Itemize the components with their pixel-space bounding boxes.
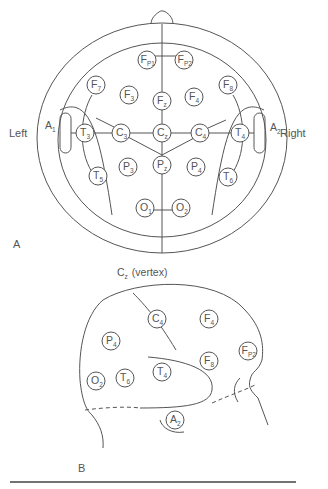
top-electrode-cz: Cz: [153, 124, 171, 142]
top-electrode-o2: O2: [172, 199, 190, 217]
panel-a-label: A: [13, 238, 21, 250]
side-electrode-fp2: FP2: [239, 342, 257, 360]
dashed-line-right: [212, 385, 255, 403]
side-electrode-f8: F8: [200, 352, 218, 370]
c3-diagonal: [96, 118, 114, 127]
panel-b-side-view: Cz(vertex) C4F4P4F8FP2T4O2T6A2 B: [78, 266, 268, 474]
top-electrode-f8: F8: [219, 76, 237, 94]
top-electrode-c3: C3: [112, 124, 130, 142]
side-electrode-c4: C4: [148, 310, 166, 328]
ear-a1-label: A1: [45, 119, 56, 133]
c4-diagonal: [208, 120, 226, 128]
top-electrode-fp2: FP2: [175, 51, 193, 69]
side-electrode-t6: T6: [116, 369, 134, 387]
face-contour: [234, 378, 240, 402]
ear-a2-label: A2: [270, 121, 281, 135]
top-electrode-t4: T4: [231, 124, 249, 142]
top-electrode-fz: Fz: [153, 92, 171, 110]
dashed-line-left: [85, 407, 140, 410]
side-electrode-t4: T4: [153, 363, 171, 381]
top-electrode-f4: F4: [185, 88, 203, 106]
top-electrode-f3: F3: [120, 86, 138, 104]
left-para-arc: [60, 107, 112, 215]
top-electrode-t3: T3: [76, 124, 94, 142]
top-electrode-c4: C4: [191, 124, 209, 142]
top-electrode-pz: Pz: [153, 156, 171, 174]
top-electrode-o1: O1: [136, 199, 154, 217]
side-electrode-o2: O2: [87, 372, 105, 390]
eeg-electrode-diagram: Left Right A1 A2 FP1FP2F7F8F3FzF4T3C3CzC…: [0, 0, 328, 489]
top-electrode-p3: P3: [119, 158, 137, 176]
top-electrode-p4: P4: [187, 158, 205, 176]
right-label: Right: [280, 127, 306, 139]
left-label: Left: [9, 127, 27, 139]
panel-b-electrodes: C4F4P4F8FP2T4O2T6A2: [87, 310, 257, 429]
side-electrode-f4: F4: [200, 310, 218, 328]
vertex-label: Cz(vertex): [117, 266, 167, 280]
top-electrode-t5: T5: [89, 167, 107, 185]
top-electrode-f7: F7: [87, 76, 105, 94]
nose-outline: [151, 11, 173, 24]
top-electrode-t6: T6: [219, 168, 237, 186]
top-electrode-fp1: FP1: [138, 51, 156, 69]
side-electrode-a2: A2: [166, 411, 184, 429]
panel-a-top-view: Left Right A1 A2 FP1FP2F7F8F3FzF4T3C3CzC…: [9, 11, 306, 253]
side-electrode-p4: P4: [102, 332, 120, 350]
left-ear: [60, 113, 71, 153]
panel-b-label: B: [78, 462, 85, 474]
